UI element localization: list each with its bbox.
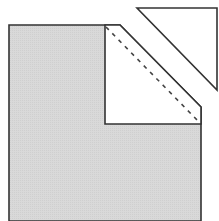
- diagram-canvas: [0, 0, 219, 221]
- folding-diagram: [0, 0, 219, 221]
